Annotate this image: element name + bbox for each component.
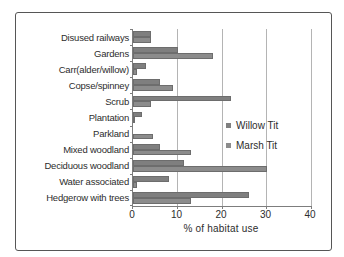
category-label-scrub: Scrub: [20, 93, 129, 109]
category-label-carr-alder-willow: Carr(alder/willow): [20, 61, 129, 77]
bar-marsh-tit-mixed-woodland: [133, 150, 191, 156]
y-tick-5: [130, 109, 133, 110]
gridline-40: [311, 29, 312, 206]
bar-willow-tit-water-associated: [133, 176, 169, 182]
legend-item-marsh-tit: Marsh Tit: [226, 140, 278, 151]
bar-marsh-tit-copse-spinney: [133, 85, 173, 91]
x-tick-label-20: 20: [206, 209, 236, 220]
y-tick-3: [130, 77, 133, 78]
bar-marsh-tit-gardens: [133, 53, 213, 59]
y-tick-2: [130, 61, 133, 62]
bar-marsh-tit-hedgerow-with-trees: [133, 198, 191, 204]
habitat-use-chart-figure: Disused railwaysGardensCarr(alder/willow…: [0, 0, 344, 257]
legend-swatch-marsh-tit-icon: [226, 143, 231, 148]
category-axis-labels: Disused railwaysGardensCarr(alder/willow…: [20, 29, 129, 206]
y-tick-8: [130, 158, 133, 159]
x-tick-label-40: 40: [295, 209, 325, 220]
plot-area: [132, 29, 311, 207]
category-label-hedgerow-with-trees: Hedgerow with trees: [20, 190, 129, 206]
bar-marsh-tit-deciduous-woodland: [133, 166, 267, 172]
y-tick-7: [130, 142, 133, 143]
y-tick-11: [130, 205, 133, 206]
x-axis-title: % of habitat use: [132, 223, 310, 234]
category-label-plantation: Plantation: [20, 109, 129, 125]
y-tick-4: [130, 93, 133, 94]
category-label-disused-railways: Disused railways: [20, 29, 129, 45]
legend-label-willow-tit: Willow Tit: [236, 120, 278, 131]
x-tick-label-0: 0: [117, 209, 147, 220]
bar-marsh-tit-carr-alder-willow: [133, 69, 137, 75]
category-label-water-associated: Water associated: [20, 174, 129, 190]
legend-label-marsh-tit: Marsh Tit: [236, 140, 277, 151]
bar-marsh-tit-water-associated: [133, 182, 137, 188]
bar-marsh-tit-disused-railways: [133, 37, 151, 43]
legend: Willow Tit Marsh Tit: [226, 120, 278, 160]
bar-marsh-tit-plantation: [133, 117, 135, 123]
gridline-20: [222, 29, 223, 206]
bar-marsh-tit-scrub: [133, 101, 151, 107]
category-label-mixed-woodland: Mixed woodland: [20, 142, 129, 158]
y-tick-9: [130, 174, 133, 175]
x-tick-label-30: 30: [251, 209, 281, 220]
y-tick-0: [130, 29, 133, 30]
x-tick-label-10: 10: [162, 209, 192, 220]
category-label-gardens: Gardens: [20, 45, 129, 61]
category-label-copse-spinney: Copse/spinney: [20, 77, 129, 93]
category-label-deciduous-woodland: Deciduous woodland: [20, 158, 129, 174]
gridline-30: [266, 29, 267, 206]
y-tick-6: [130, 126, 133, 127]
y-tick-10: [130, 190, 133, 191]
bar-marsh-tit-parkland: [133, 134, 153, 140]
legend-swatch-willow-tit-icon: [226, 123, 231, 128]
category-label-parkland: Parkland: [20, 126, 129, 142]
y-tick-1: [130, 45, 133, 46]
chart-border-box: Disused railwaysGardensCarr(alder/willow…: [15, 12, 332, 251]
legend-item-willow-tit: Willow Tit: [226, 120, 278, 131]
